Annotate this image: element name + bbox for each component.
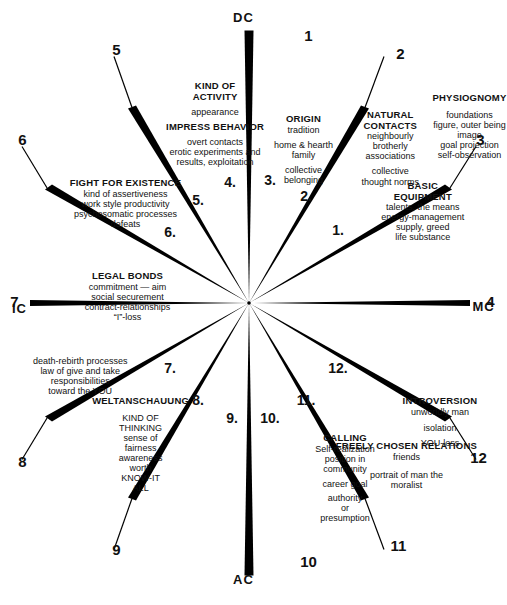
- house-4-line-1: tradition: [274, 125, 333, 135]
- house-1-line-5: self-observation: [433, 149, 507, 159]
- house-7-text: LEGAL BONDS commitment — aim social secu…: [85, 271, 171, 322]
- house-3-line-3: neighbourly: [362, 131, 420, 141]
- house-10-text: CALLING Self-realization position in com…: [315, 432, 375, 522]
- house-1-line-4: goal projection: [433, 139, 507, 149]
- house-number-9: 9.: [226, 409, 238, 425]
- house-2-line-3: talents, the means: [381, 202, 464, 212]
- house-6-title: FIGHT FOR EXISTENCE: [70, 178, 181, 189]
- house-5-line-7: results, exploitation: [166, 157, 264, 167]
- house-12-title: INTROVERSION: [403, 396, 478, 407]
- house-5-line-6: erotic experiments and: [166, 147, 264, 157]
- house-3-line-6: collective: [362, 166, 420, 176]
- house-2-line-4: energy-management: [381, 212, 464, 222]
- house-10-title: CALLING: [315, 432, 375, 443]
- house-3-line-2: CONTACTS: [362, 121, 420, 132]
- house-1-title: PHYSIOGNOMY: [433, 92, 507, 103]
- house-10-line-7: presumption: [315, 512, 375, 522]
- house-4-line-3: family: [274, 150, 333, 160]
- house-number-10: 10.: [260, 409, 279, 425]
- house-5-line-2: ACTIVITY: [166, 92, 264, 103]
- house-9-line-8: ALL: [92, 483, 189, 493]
- house-7-line-1: commitment — aim: [85, 281, 171, 291]
- house-6-line-2: work style productivity: [70, 198, 181, 208]
- house-number-1: 1.: [332, 221, 344, 237]
- house-10-line-3: community: [315, 463, 375, 473]
- house-9-line-4: fairness: [92, 443, 189, 453]
- house-9-line-5: awareness: [92, 453, 189, 463]
- cusp-number-11: 11: [391, 537, 407, 554]
- house-8-line-3: responsibilities: [33, 376, 128, 386]
- house-9-line-7: KNOW-IT: [92, 473, 189, 483]
- house-4-line-4: collective: [274, 165, 333, 175]
- house-8-line-1: death-rebirth processes: [33, 356, 128, 366]
- house-8-text: death-rebirth processes law of give and …: [33, 356, 128, 396]
- house-5-line-3: appearance: [166, 107, 264, 117]
- cusp-number-9: 9: [112, 540, 120, 557]
- house-1-line-2: figure, outer being: [433, 119, 507, 129]
- house-5-line-5: overt contacts: [166, 137, 264, 147]
- house-10-line-5: authority: [315, 492, 375, 502]
- house-8-line-2: law of give and take: [33, 366, 128, 376]
- house-9-title: WELTANSCHAUUNG: [92, 396, 189, 407]
- house-number-7: 7.: [164, 359, 176, 375]
- house-7-line-4: “I”-loss: [85, 312, 171, 322]
- house-4-line-2: home & hearth: [274, 140, 333, 150]
- house-4-line-5: belonging: [274, 175, 333, 185]
- house-4-title: ORIGIN: [274, 114, 333, 125]
- cusp-number-6: 6: [18, 130, 26, 147]
- house-3-line-5: associations: [362, 151, 420, 161]
- house-7-line-3: contract-relationships: [85, 302, 171, 312]
- house-10-line-4: career goal: [315, 478, 375, 488]
- house-2-line-1: BASIC: [381, 181, 464, 192]
- house-3-line-1: NATURAL: [362, 110, 420, 121]
- house-5-text: KIND OF ACTIVITY appearance IMPRESS BEHA…: [166, 81, 264, 167]
- axis-label-ac: AC: [233, 571, 254, 586]
- house-1-text: PHYSIOGNOMY foundations figure, outer be…: [433, 92, 507, 159]
- house-number-2: 2.: [300, 187, 312, 203]
- house-9-line-3: sense of: [92, 433, 189, 443]
- cusp-number-1: 1: [304, 26, 312, 43]
- house-9-line-6: worth: [92, 463, 189, 473]
- house-6-line-3: psychosomatic processes: [70, 209, 181, 219]
- house-9-line-1: KIND OF: [92, 413, 189, 423]
- house-number-4: 4.: [224, 173, 236, 189]
- house-number-8: 8.: [192, 391, 204, 407]
- house-number-12: 12.: [328, 359, 347, 375]
- axis-mc-bar: [249, 300, 470, 306]
- axis-label-dc: DC: [233, 9, 254, 24]
- house-5-line-4: IMPRESS BEHAVIOR: [166, 122, 264, 133]
- house-9-text: WELTANSCHAUUNG KIND OF THINKING sense of…: [92, 396, 189, 493]
- house-10-line-6: or: [315, 502, 375, 512]
- cusp-number-5: 5: [112, 40, 120, 57]
- house-3-text: NATURAL CONTACTS neighbourly brotherly a…: [362, 110, 420, 187]
- house-7-line-2: social securement: [85, 291, 171, 301]
- ext-2: [365, 56, 384, 107]
- cusp-number-10: 10: [300, 552, 317, 569]
- house-10-line-2: position in: [315, 453, 375, 463]
- house-1-line-3: image: [433, 129, 507, 139]
- house-12-line-1: unworldly man: [403, 406, 478, 416]
- house-number-5: 5.: [192, 191, 204, 207]
- house-5-line-1: KIND OF: [166, 81, 264, 92]
- house-9-line-2: THINKING: [92, 423, 189, 433]
- house-3-line-4: brotherly: [362, 141, 420, 151]
- house-10-line-1: Self-realization: [315, 443, 375, 453]
- house-7-title: LEGAL BONDS: [85, 271, 171, 282]
- ext-6: [22, 146, 48, 189]
- house-12-line-2: isolation: [403, 422, 478, 432]
- house-2-text: BASIC EQUIPMENT talents, the means energ…: [381, 181, 464, 243]
- cusp-number-8: 8: [18, 452, 26, 469]
- house-number-11: 11.: [297, 392, 316, 408]
- house-6-line-1: kind of assertiveness: [70, 188, 181, 198]
- house-8-line-4: toward the YOU: [33, 386, 128, 396]
- cusp-number-4: 4: [486, 292, 494, 309]
- house-6-line-4: defeats: [70, 219, 181, 229]
- house-2-line-6: life substance: [381, 232, 464, 242]
- house-1-line-1: foundations: [433, 109, 507, 119]
- cusp-number-2: 2: [396, 44, 404, 61]
- ext-5: [114, 56, 132, 107]
- cusp-number-7: 7: [10, 292, 18, 309]
- house-2-line-2: EQUIPMENT: [381, 191, 464, 202]
